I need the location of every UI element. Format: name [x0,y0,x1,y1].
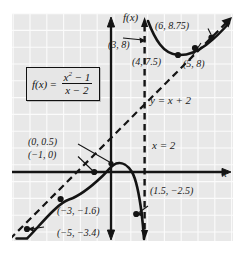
x-axis-label: x [222,168,227,179]
dot-6-8p75 [208,34,214,40]
leader-6-8p75 [208,29,211,35]
formula-box: f(x) = x2 − 1 x − 2 [26,67,100,101]
point-label-neg5-neg3p4: (−5, −3.4) [57,228,100,238]
point-label-5-8: (5, 8) [183,59,205,69]
point-label-4-7p5: (4, 7.5) [132,57,161,67]
point-label-0-0p5: (0, 0.5) [28,137,57,147]
formula-fraction: x2 − 1 x − 2 [60,71,93,97]
dot-4-7p5 [175,52,181,58]
figure-container: f(x) x (3, 8) (4, 7.5) (5, 8) (6, 8.75) … [0,0,239,253]
point-label-neg3-neg1p6: (−3, −1.6) [57,206,100,216]
vertical-asymptote-label: x = 2 [152,140,175,151]
leader-0-0p5 [78,144,110,162]
formula-numerator-exponent: 2 [68,70,72,78]
dot-neg3-neg1p6 [58,196,64,202]
point-label-6-8p75: (6, 8.75) [155,21,189,31]
point-label-1p5-neg2p5: (1.5, −2.5) [150,186,193,196]
y-axis-label: f(x) [123,12,138,23]
formula-numerator-rest: − 1 [75,71,91,83]
formula-numerator: x2 − 1 [60,71,93,83]
point-label-neg1-0: (−1, 0) [28,150,56,160]
slant-asymptote-label: y = x + 2 [150,95,191,106]
point-label-3-8: (3, 8) [108,40,130,50]
formula-denominator: x − 2 [62,83,91,97]
formula-lhs: f(x) [32,78,47,90]
formula-equals: = [50,78,56,90]
